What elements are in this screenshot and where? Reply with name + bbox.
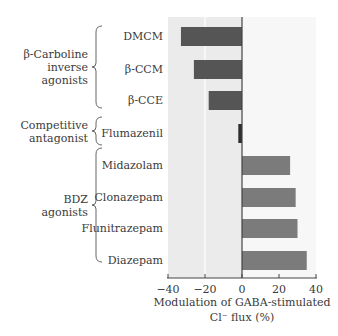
bar--cce <box>209 91 242 110</box>
x-axis-title: Modulation of GABA-stimulatedCl⁻ flux (%… <box>153 296 330 324</box>
tick-label: 20 <box>272 283 286 296</box>
tick-label: −20 <box>193 283 216 296</box>
group-label: agonists <box>41 206 88 219</box>
group-brace <box>92 148 102 262</box>
category-label: Flunitrazepam <box>82 222 164 235</box>
group-label: BDZ <box>63 193 88 206</box>
category-label: β-CCM <box>125 63 163 76</box>
tick-label: 0 <box>239 283 246 296</box>
bar-midazolam <box>242 156 290 175</box>
bar-chart: −40−2002040 DMCMβ-CCMβ-CCEFlumazenilMida… <box>0 0 338 336</box>
group-label: β-Carboline <box>23 48 88 61</box>
bar-flunitrazepam <box>242 219 298 238</box>
tick-label: −40 <box>156 283 179 296</box>
group-label: agonists <box>41 74 88 87</box>
group-label: inverse <box>47 61 88 74</box>
bar-clonazepam <box>242 188 296 207</box>
positive-region <box>242 17 316 278</box>
category-label: DMCM <box>123 30 163 43</box>
category-label: Midazolam <box>102 159 164 172</box>
x-axis-title-line: Cl⁻ flux (%) <box>210 311 274 324</box>
bar-diazepam <box>242 251 307 270</box>
category-label: Diazepam <box>108 254 164 267</box>
category-label: Clonazepam <box>94 191 163 204</box>
category-labels: DMCMβ-CCMβ-CCEFlumazenilMidazolamClonaze… <box>82 30 164 267</box>
tick-label: 40 <box>309 283 323 296</box>
bar-dmcm <box>181 27 242 46</box>
group-label: antagonist <box>29 132 89 145</box>
x-axis-title-line: Modulation of GABA-stimulated <box>153 296 330 309</box>
group-label: Competitive <box>20 119 88 132</box>
category-label: Flumazenil <box>101 127 163 140</box>
group-brace <box>92 26 102 108</box>
bar--ccm <box>194 60 242 79</box>
category-label: β-CCE <box>128 94 163 107</box>
